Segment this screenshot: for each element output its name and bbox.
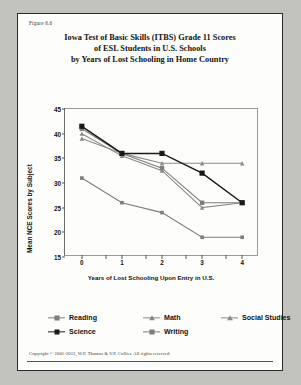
data-point [80,176,84,180]
legend-item-label: Writing [164,328,188,336]
legend-item-social-studies: Social Studies [221,314,301,322]
data-point [119,151,124,156]
x-tick-label: 4 [240,259,244,266]
y-axis-label: Mean NCE Scores by Subject [24,154,35,264]
data-point [200,235,204,239]
chart-title-line-1: Iowa Test of Basic Skills (ITBS) Grade 1… [18,32,282,43]
y-tick-label: 45 [54,106,61,113]
footer-rule [27,361,273,362]
data-point [80,131,84,135]
legend-item-reading: Reading [48,314,143,322]
chart-title-line-3: by Years of Lost Schooling in Home Count… [18,54,282,65]
chart-area: Mean NCE Scores by Subject 1520253035404… [18,102,284,282]
chart-legend: ReadingMathSocial StudiesScienceWriting [48,314,288,336]
triangle-marker-icon [143,314,160,322]
x-axis-label: Years of Lost Schooling Upon Entry in U.… [18,274,284,281]
legend-item-label: Reading [69,314,97,322]
y-tick-label: 25 [54,204,61,211]
y-tick-label: 15 [54,254,61,261]
figure-page: Figure 6.6 Iowa Test of Basic Skills (IT… [0,0,301,385]
legend-item-math: Math [143,314,221,322]
plot-region: 15202530354045 01234 [64,108,258,256]
triangle-marker-icon [221,314,238,322]
figure-sheet: Figure 6.6 Iowa Test of Basic Skills (IT… [17,13,283,371]
y-tick-label: 30 [54,180,61,187]
copyright-notice: Copyright © 2001-2012, W.P. Thomas & V.P… [29,351,171,356]
data-point [240,200,245,205]
series-reading [80,127,245,205]
y-tick-label: 40 [54,130,61,137]
data-point [199,171,204,176]
data-point [240,235,244,239]
data-point [120,201,124,205]
y-tick-label: 35 [54,155,61,162]
data-point [200,201,204,205]
chart-title-line-2: of ESL Students in U.S. Schools [18,43,282,54]
series-line [82,178,242,237]
x-tick-label: 0 [80,259,84,266]
legend-item-label: Science [69,328,96,336]
legend-item-label: Social Studies [242,314,291,322]
legend-item-label: Math [164,314,181,322]
data-point [79,124,84,129]
series-line [82,129,242,203]
figure-label: Figure 6.6 [29,20,52,26]
square-marker-icon [48,314,65,322]
series-lines [65,109,259,257]
legend-item-science: Science [48,328,143,336]
data-point [159,151,164,156]
square-marker-icon [48,328,65,336]
data-point [160,211,164,215]
x-tick-label: 1 [120,259,124,266]
chart-title: Iowa Test of Basic Skills (ITBS) Grade 1… [18,32,282,66]
x-tick-label: 3 [200,259,204,266]
legend-item-writing: Writing [143,328,221,336]
square-marker-icon [143,328,160,336]
x-tick-label: 2 [160,259,164,266]
y-tick-label: 20 [54,229,61,236]
